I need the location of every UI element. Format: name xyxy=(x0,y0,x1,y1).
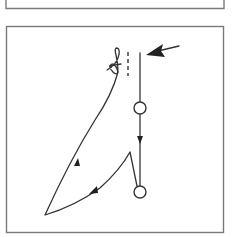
down-left-arrow-icon xyxy=(89,186,98,194)
vertical-path xyxy=(137,53,143,186)
main-panel-border xyxy=(7,27,224,233)
up-arrow-icon xyxy=(74,158,80,166)
entry-arrow-icon xyxy=(146,44,179,57)
loop-marker xyxy=(107,48,121,74)
main-panel xyxy=(7,27,224,233)
top-panel xyxy=(6,0,224,9)
node-2 xyxy=(134,186,146,198)
down-arrow-icon xyxy=(137,136,143,144)
diagram-canvas xyxy=(0,0,233,237)
return-path xyxy=(45,72,137,215)
node-1 xyxy=(134,102,146,114)
